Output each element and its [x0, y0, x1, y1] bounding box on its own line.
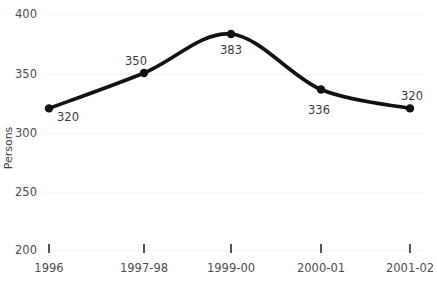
y-tick-label-200: 200 [15, 243, 37, 257]
data-point-1999-00 [227, 30, 235, 38]
y-axis-ticks: 400 350 300 250 200 [15, 7, 37, 257]
x-tick-label-2000-01: 2000-01 [297, 261, 345, 275]
chart-canvas: 400 350 300 250 200 Persons 1996 1997-98… [0, 0, 437, 286]
data-label-1996: 320 [57, 110, 79, 124]
y-tick-label-300: 300 [15, 126, 37, 140]
line-chart-persons: 400 350 300 250 200 Persons 1996 1997-98… [0, 0, 437, 286]
x-tick-label-1997-98: 1997-98 [120, 261, 168, 275]
data-label-2000-01: 336 [308, 103, 330, 117]
x-axis-ticks: 1996 1997-98 1999-00 2000-01 2001-02 [34, 261, 434, 275]
data-point-1997-98 [140, 69, 148, 77]
data-point-1996 [45, 104, 53, 112]
data-label-1999-00: 383 [220, 43, 242, 57]
data-point-2000-01 [317, 85, 325, 93]
x-tick-label-1996: 1996 [34, 261, 63, 275]
data-label-1997-98: 350 [125, 54, 147, 68]
x-axis-tickmarks [49, 244, 410, 253]
x-tick-label-1999-00: 1999-00 [207, 261, 255, 275]
y-axis-title: Persons [2, 126, 15, 169]
data-point-2001-02 [406, 104, 414, 112]
x-tick-label-2001-02: 2001-02 [386, 261, 434, 275]
y-tick-label-250: 250 [15, 185, 37, 199]
data-label-2001-02: 320 [401, 89, 423, 103]
y-tick-label-350: 350 [15, 67, 37, 81]
y-tick-label-400: 400 [15, 7, 37, 21]
